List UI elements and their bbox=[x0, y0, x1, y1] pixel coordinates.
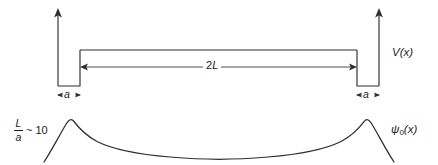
right-barrier-width-label: a bbox=[363, 89, 369, 100]
ratio-denominator: a bbox=[15, 131, 23, 143]
potential-curve-group bbox=[54, 8, 383, 86]
wavefunction-axis-label: ψ0(x) bbox=[391, 124, 417, 137]
right-barrier-well-outline bbox=[357, 50, 379, 86]
ratio-relation: ~ 10 bbox=[26, 125, 48, 136]
potential-well-figure: 2L a a V(x) ψ0(x) L a ~ 10 bbox=[0, 0, 438, 165]
wavefunction-curve-group bbox=[44, 120, 394, 162]
well-width-label: 2L bbox=[203, 60, 221, 71]
figure-canvas bbox=[0, 0, 438, 165]
well-width-label-text: L bbox=[212, 59, 218, 71]
psi-argument: (x) bbox=[404, 123, 417, 135]
potential-axis-label: V(x) bbox=[392, 47, 413, 59]
ground-state-wavefunction-path bbox=[44, 120, 394, 162]
ratio-fraction: L a bbox=[14, 118, 23, 142]
left-barrier-width-label: a bbox=[64, 89, 70, 100]
left-barrier-well-outline bbox=[58, 50, 80, 86]
length-ratio-label: L a ~ 10 bbox=[14, 118, 48, 142]
ratio-numerator: L bbox=[15, 118, 23, 130]
